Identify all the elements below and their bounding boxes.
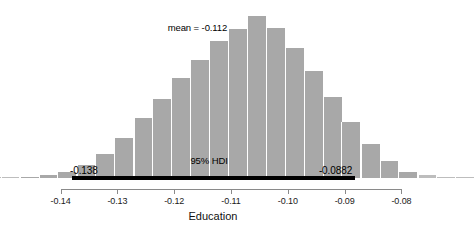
histogram-bar bbox=[285, 48, 304, 178]
x-axis-tick-label: -0.11 bbox=[211, 196, 251, 206]
histogram-bar bbox=[1, 177, 20, 178]
histogram-bar bbox=[95, 154, 114, 178]
x-axis-tick-label: -0.08 bbox=[381, 196, 421, 206]
histogram-bar bbox=[455, 177, 474, 178]
histogram-bar bbox=[247, 16, 266, 178]
hdi-bar-line bbox=[72, 176, 355, 180]
x-axis-tick-label: -0.09 bbox=[325, 196, 365, 206]
histogram-bar bbox=[152, 99, 171, 178]
histogram-bar bbox=[380, 161, 399, 178]
x-axis-title: Education bbox=[0, 210, 426, 222]
histogram-bar bbox=[134, 118, 153, 178]
x-axis-tick bbox=[61, 189, 62, 194]
mean-annotation: mean = -0.112 bbox=[168, 22, 228, 33]
x-axis-tick bbox=[288, 189, 289, 194]
hdi-upper-bound-label: -0.0882 bbox=[319, 165, 352, 176]
x-axis-tick-label: -0.12 bbox=[154, 196, 194, 206]
x-axis-tick-label: -0.14 bbox=[41, 196, 81, 206]
histogram-bar bbox=[228, 29, 247, 178]
histogram-bar bbox=[171, 78, 190, 178]
x-axis-tick bbox=[174, 189, 175, 194]
x-axis-tick bbox=[231, 189, 232, 194]
histogram-bar bbox=[398, 172, 417, 178]
histogram-bar bbox=[266, 28, 285, 178]
x-axis-tick-label: -0.13 bbox=[97, 196, 137, 206]
histogram-bar bbox=[304, 71, 323, 178]
x-axis-tick-label: -0.10 bbox=[268, 196, 308, 206]
hdi-lower-bound-label: -0.138 bbox=[70, 165, 98, 176]
histogram-bar bbox=[114, 138, 133, 179]
hdi-label: 95% HDI bbox=[190, 155, 227, 166]
x-axis-tick bbox=[117, 189, 118, 194]
x-axis-tick bbox=[401, 189, 402, 194]
histogram-bar bbox=[20, 177, 39, 178]
histogram-bar bbox=[39, 175, 58, 178]
x-axis-tick bbox=[345, 189, 346, 194]
histogram-bar bbox=[361, 144, 380, 178]
histogram-bar bbox=[418, 175, 437, 178]
histogram-bar bbox=[436, 177, 455, 178]
